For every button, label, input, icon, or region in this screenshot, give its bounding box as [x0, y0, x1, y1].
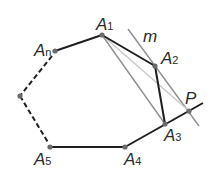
point-v — [17, 93, 22, 98]
point-a5 — [47, 144, 52, 149]
edge-an-a1 — [55, 35, 102, 51]
label-an: An — [33, 41, 51, 60]
label-a4: A4 — [123, 150, 141, 169]
segment-a1-p — [102, 35, 189, 111]
dashed-edge-v-a5 — [20, 96, 49, 144]
label-a5: A5 — [33, 150, 51, 169]
dashed-edge-an-v — [20, 56, 52, 96]
label-line-m: m — [143, 27, 157, 46]
label-a2: A2 — [160, 49, 178, 68]
label-a1: A1 — [95, 15, 113, 34]
polygon-diagram: A1 A2 A3 A4 A5 An P m — [0, 0, 217, 181]
point-an — [52, 48, 57, 53]
label-p: P — [185, 89, 197, 108]
point-a2 — [152, 63, 157, 68]
point-p — [186, 108, 191, 113]
label-a3: A3 — [163, 126, 181, 145]
edge-a2-a3 — [155, 66, 165, 124]
point-a4 — [122, 144, 127, 149]
diagonal-a1-a3 — [102, 35, 165, 124]
